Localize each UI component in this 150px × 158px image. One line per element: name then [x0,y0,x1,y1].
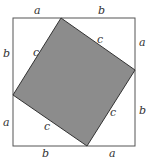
label-c-bottom-left: c [44,120,50,133]
label-c-bottom-right: c [110,106,116,119]
label-bottom-b: b [42,147,49,158]
label-c-top-left: c [33,46,39,59]
label-bottom-a: a [109,147,116,158]
label-right-a: a [139,36,146,49]
label-top-b: b [98,4,105,17]
diagram-canvas: a b a b b a b a c c c c [0,0,150,158]
inner-square [13,18,135,146]
label-top-a: a [34,4,41,17]
label-left-b: b [3,47,10,60]
label-left-a: a [3,116,10,129]
label-right-b: b [139,104,146,117]
pythagorean-diagram: a b a b b a b a c c c c [0,0,150,158]
label-c-top-right: c [97,33,103,46]
